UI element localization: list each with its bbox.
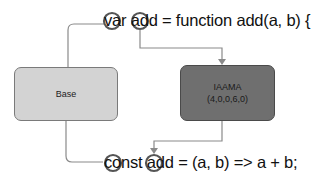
diagram-canvas: var add = function add(a, b) { Base IAAM… [0, 0, 321, 184]
edge-iaama-to-add [154, 121, 222, 151]
node-base-label: Base [56, 88, 77, 100]
edge-var-to-base [68, 24, 104, 67]
edge-base-to-const [66, 121, 103, 162]
node-iaama-sublabel: (4,0,0,6,0) [207, 93, 248, 105]
node-iaama: IAAMA (4,0,0,6,0) [180, 65, 275, 121]
edge-add-to-iaama [140, 30, 222, 62]
code-line-top: var add = function add(a, b) { [104, 11, 310, 30]
node-base: Base [14, 67, 118, 121]
node-iaama-label: IAAMA [213, 81, 241, 93]
code-line-bottom: const add = (a, b) => a + b; [104, 153, 297, 172]
